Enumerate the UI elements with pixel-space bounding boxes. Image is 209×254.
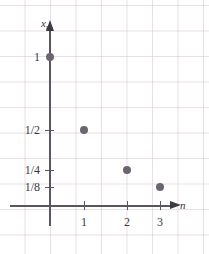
x-tick-mark-2 bbox=[127, 201, 128, 210]
y-tick-mark-half bbox=[45, 130, 54, 131]
y-axis-label: xn bbox=[41, 18, 50, 33]
y-tick-mark-quarter bbox=[45, 170, 54, 171]
x-tick-mark-3 bbox=[160, 201, 161, 210]
y-tick-mark-eighth bbox=[45, 187, 54, 188]
x-tick-mark-1 bbox=[84, 201, 85, 210]
y-axis-label-subscript: n bbox=[46, 23, 50, 32]
y-tick-label-1-8: 1/8 bbox=[4, 181, 40, 193]
x-tick-label-1: 1 bbox=[70, 216, 98, 228]
x-axis-label: n bbox=[180, 200, 186, 211]
x-tick-label-2: 2 bbox=[113, 216, 141, 228]
x-tick-label-3: 3 bbox=[146, 216, 174, 228]
y-tick-label-1: 1 bbox=[4, 51, 40, 63]
data-point-n3 bbox=[156, 183, 164, 191]
data-point-n2 bbox=[123, 166, 131, 174]
y-tick-label-1-4: 1/4 bbox=[4, 164, 40, 176]
x-axis-line bbox=[10, 205, 173, 207]
plot-area: xn n 1 1/2 1/4 1/8 1 2 3 bbox=[0, 0, 209, 254]
sequence-plot-figure: xn n 1 1/2 1/4 1/8 1 2 3 bbox=[0, 0, 209, 254]
y-tick-label-1-2: 1/2 bbox=[4, 124, 40, 136]
data-point-n0 bbox=[46, 53, 54, 61]
data-point-n1 bbox=[80, 126, 88, 134]
